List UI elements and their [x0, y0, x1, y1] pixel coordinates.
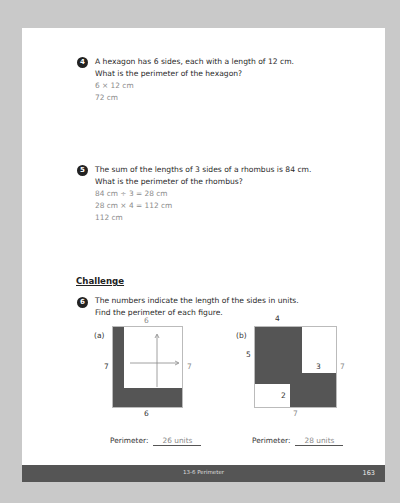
answer-line: 6 × 12 cm: [95, 80, 134, 92]
figure-a: [112, 326, 183, 408]
figure-a-label: (a): [94, 331, 104, 340]
answer-line: 112 cm: [95, 212, 123, 224]
figure-b-perimeter: Perimeter:28 units: [252, 436, 343, 446]
figure-b-inner-right-length: 3: [316, 362, 321, 371]
figure-a-left-length: 7: [104, 362, 109, 371]
question-text: Find the perimeter of each figure.: [95, 307, 223, 319]
figure-b-right-length: 7: [340, 362, 345, 371]
figure-b-bottom-length: 7: [293, 409, 298, 418]
perimeter-answer: 28 units: [295, 436, 343, 446]
answer-line: 84 cm ÷ 3 = 28 cm: [95, 188, 168, 200]
figure-a-top-length: 6: [144, 316, 149, 325]
page-number: 163: [363, 469, 375, 477]
figure-b-top-length: 4: [275, 314, 280, 323]
figure-b-shaded-bottom-right: [290, 373, 336, 407]
page-footer-bar: 13-6 Perimeter 163: [22, 465, 385, 482]
perimeter-answer: 26 units: [153, 436, 201, 446]
question-text: What is the perimeter of the hexagon?: [95, 68, 242, 80]
figure-a-perimeter: Perimeter:26 units: [110, 436, 201, 446]
figure-b: [254, 326, 337, 408]
workbook-page: [22, 28, 385, 482]
question-number-badge: 4: [77, 57, 88, 68]
perimeter-label: Perimeter:: [252, 436, 290, 445]
question-number-badge: 6: [77, 297, 88, 308]
question-text: The numbers indicate the length of the s…: [95, 295, 299, 307]
axes-arrows-icon: [128, 331, 184, 387]
figure-a-shaded-horizontal: [113, 388, 182, 407]
challenge-heading: Challenge: [76, 276, 124, 286]
footer-section-title: 13-6 Perimeter: [22, 469, 385, 475]
question-text: The sum of the lengths of 3 sides of a r…: [95, 164, 311, 176]
figure-b-label: (b): [236, 331, 247, 340]
figure-b-inner-bottom-length: 2: [281, 391, 286, 400]
question-text: A hexagon has 6 sides, each with a lengt…: [95, 56, 294, 68]
figure-a-right-length: 7: [187, 362, 192, 371]
figure-b-left-length: 5: [246, 350, 251, 359]
answer-line: 28 cm × 4 = 112 cm: [95, 200, 172, 212]
question-number-badge: 5: [77, 165, 88, 176]
figure-a-bottom-length: 6: [144, 409, 149, 418]
question-text: What is the perimeter of the rhombus?: [95, 176, 243, 188]
perimeter-label: Perimeter:: [110, 436, 148, 445]
answer-line: 72 cm: [95, 92, 118, 104]
